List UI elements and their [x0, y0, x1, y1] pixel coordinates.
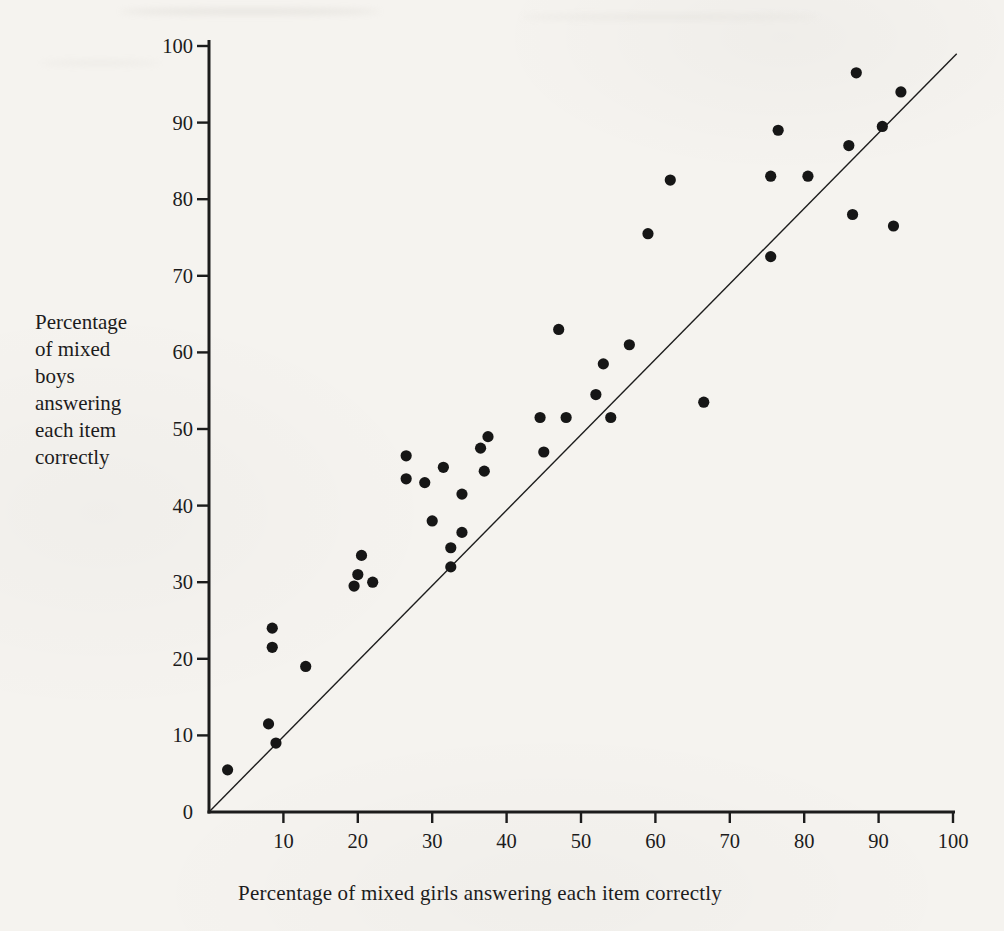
x-tick-label: 20 [348, 830, 369, 852]
data-point [598, 358, 609, 369]
data-point [356, 550, 367, 561]
y-axis-title-line: of mixed [35, 336, 127, 363]
data-point [895, 86, 906, 97]
y-tick-label: 70 [173, 265, 194, 287]
data-point [877, 121, 888, 132]
x-tick-label: 10 [273, 830, 294, 852]
x-tick-label: 100 [938, 830, 969, 852]
y-axis-title-line: answering [35, 390, 127, 417]
y-axis-title-line: boys [35, 363, 127, 390]
y-axis-title-line: correctly [35, 444, 127, 471]
x-tick-label: 40 [496, 830, 517, 852]
scatter-chart: 1020304050607080901000102030405060708090… [0, 0, 1004, 931]
y-tick-label: 40 [173, 495, 194, 517]
data-point [888, 220, 899, 231]
data-point [456, 527, 467, 538]
data-point [765, 171, 776, 182]
data-point [300, 661, 311, 672]
data-point [605, 412, 616, 423]
data-point [590, 389, 601, 400]
data-point [427, 515, 438, 526]
y-tick-label: 10 [173, 724, 194, 746]
x-tick-label: 30 [422, 830, 443, 852]
data-point [482, 431, 493, 442]
data-point [843, 140, 854, 151]
scatter-plot-svg: 1020304050607080901000102030405060708090… [0, 0, 1004, 931]
data-point [561, 412, 572, 423]
data-point [267, 642, 278, 653]
y-axis-title-line: Percentage [35, 309, 127, 336]
data-point [270, 737, 281, 748]
data-point [847, 209, 858, 220]
equality-line [209, 54, 957, 812]
data-point [851, 67, 862, 78]
y-tick-label: 100 [162, 35, 193, 57]
y-axis-title-line: each item [35, 417, 127, 444]
x-tick-label: 70 [720, 830, 741, 852]
x-tick-label: 50 [571, 830, 592, 852]
data-point [538, 446, 549, 457]
data-point [534, 412, 545, 423]
data-point [773, 125, 784, 136]
data-point [553, 324, 564, 335]
data-point [401, 473, 412, 484]
data-point [263, 718, 274, 729]
data-point [445, 561, 456, 572]
x-tick-label: 90 [868, 830, 889, 852]
y-tick-label: 90 [173, 112, 194, 134]
data-point [348, 580, 359, 591]
data-point [401, 450, 412, 461]
data-point [624, 339, 635, 350]
x-tick-label: 80 [794, 830, 815, 852]
y-tick-label: 80 [173, 188, 194, 210]
y-tick-label: 30 [173, 571, 194, 593]
data-point [642, 228, 653, 239]
data-point [222, 764, 233, 775]
x-axis-title: Percentage of mixed girls answering each… [0, 881, 960, 906]
data-point [352, 569, 363, 580]
data-point [765, 251, 776, 262]
data-point [367, 577, 378, 588]
data-point [479, 466, 490, 477]
data-point [802, 171, 813, 182]
data-point [267, 623, 278, 634]
y-tick-label: 50 [173, 418, 194, 440]
data-point [475, 443, 486, 454]
x-tick-label: 60 [645, 830, 666, 852]
data-point [445, 542, 456, 553]
y-tick-label: 20 [173, 648, 194, 670]
data-point [456, 489, 467, 500]
y-axis-title: Percentage of mixed boys answering each … [35, 309, 127, 471]
y-tick-label: 60 [173, 341, 194, 363]
data-point [438, 462, 449, 473]
data-point [419, 477, 430, 488]
data-point [698, 397, 709, 408]
scanned-page: 1020304050607080901000102030405060708090… [0, 0, 1004, 931]
y-tick-label: 0 [183, 801, 193, 823]
data-point [665, 174, 676, 185]
